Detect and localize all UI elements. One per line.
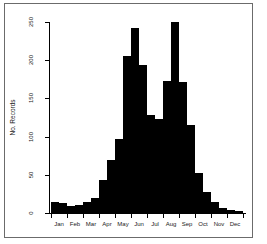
histogram-bar — [99, 180, 107, 213]
x-tick-label: Oct — [195, 220, 211, 228]
histogram-bar — [67, 206, 75, 213]
y-axis-tick — [45, 22, 49, 23]
histogram-bar — [83, 202, 91, 213]
x-tick-label: Mar — [83, 220, 99, 228]
y-tick-label-text: 200 — [28, 55, 34, 65]
y-axis-title: No. Records — [5, 106, 19, 128]
histogram-bar — [91, 198, 99, 213]
histogram-bar — [51, 202, 59, 213]
y-axis-tick — [45, 175, 49, 176]
y-tick-label: 250 — [24, 15, 38, 29]
y-tick-label-text: 50 — [28, 172, 34, 179]
screenshot-root: No. Records JanFebMarAprMayJunJulAugSepO… — [0, 0, 267, 244]
y-axis-tick — [45, 213, 49, 214]
x-tick-label: Feb — [67, 220, 83, 228]
histogram-bar — [131, 28, 139, 213]
x-tick-label: Dec — [227, 220, 243, 228]
x-tick-label: Apr — [99, 220, 115, 228]
histogram-bar — [219, 208, 227, 213]
x-axis-tick — [211, 213, 212, 218]
y-tick-label: 100 — [24, 130, 38, 144]
x-axis-tick — [227, 213, 228, 218]
histogram-bar — [171, 22, 179, 213]
x-axis-tick — [179, 213, 180, 218]
y-tick-label: 150 — [24, 91, 38, 105]
y-tick-label: 0 — [24, 206, 38, 220]
histogram-bar — [203, 192, 211, 213]
histogram-bar — [123, 56, 131, 213]
x-axis-tick — [83, 213, 84, 218]
x-axis-tick — [99, 213, 100, 218]
y-tick-label: 50 — [24, 168, 38, 182]
histogram-bar — [107, 160, 115, 213]
histogram-bar — [155, 119, 163, 213]
x-tick-label: Sep — [179, 220, 195, 228]
y-axis-title-text: No. Records — [9, 99, 16, 135]
x-tick-label: Nov — [211, 220, 227, 228]
x-axis-tick — [115, 213, 116, 218]
histogram-bar — [139, 65, 147, 213]
y-tick-label-text: 0 — [28, 211, 34, 214]
y-tick-label-text: 250 — [28, 17, 34, 27]
histogram-bar — [115, 139, 123, 213]
histogram-bar — [59, 203, 67, 213]
histogram-bar — [195, 173, 203, 213]
histogram-bar — [227, 210, 235, 213]
y-axis-tick — [45, 137, 49, 138]
x-tick-label: Aug — [163, 220, 179, 228]
y-tick-label-text: 150 — [28, 93, 34, 103]
x-axis-tick — [147, 213, 148, 218]
x-axis-tick — [243, 213, 244, 218]
histogram-bar — [187, 125, 195, 213]
y-axis-tick — [45, 60, 49, 61]
y-tick-label: 200 — [24, 53, 38, 67]
x-tick-label: May — [115, 220, 131, 228]
histogram-bar — [75, 205, 83, 213]
histogram-bar — [163, 81, 171, 213]
plot-area: No. Records JanFebMarAprMayJunJulAugSepO… — [0, 0, 267, 244]
y-axis-line — [49, 22, 50, 214]
y-tick-label-text: 100 — [28, 132, 34, 142]
x-axis-tick — [195, 213, 196, 218]
x-axis-tick — [131, 213, 132, 218]
x-tick-label: Jan — [51, 220, 67, 228]
x-axis-tick — [51, 213, 52, 218]
y-axis-tick — [45, 98, 49, 99]
x-tick-label: Jul — [147, 220, 163, 228]
histogram-bar — [147, 115, 155, 213]
histogram-bar — [235, 211, 243, 213]
x-tick-label: Jun — [131, 220, 147, 228]
histogram-bar — [211, 202, 219, 213]
histogram-bar — [179, 82, 187, 213]
x-axis-tick — [67, 213, 68, 218]
x-axis-tick — [163, 213, 164, 218]
